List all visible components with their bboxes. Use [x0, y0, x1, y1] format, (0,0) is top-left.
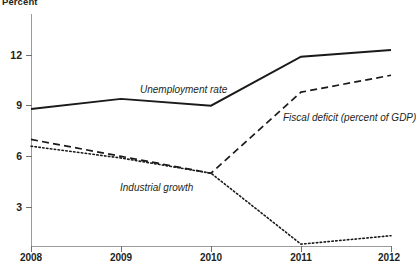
series-label-industrial-growth: Industrial growth	[120, 182, 193, 193]
series-line-unemployment-rate	[31, 50, 391, 109]
series-label-unemployment-rate: Unemployment rate	[140, 84, 227, 95]
series-label-fiscal-deficit: Fiscal deficit (percent of GDP)	[283, 112, 416, 123]
series-line-industrial-growth	[31, 146, 391, 244]
